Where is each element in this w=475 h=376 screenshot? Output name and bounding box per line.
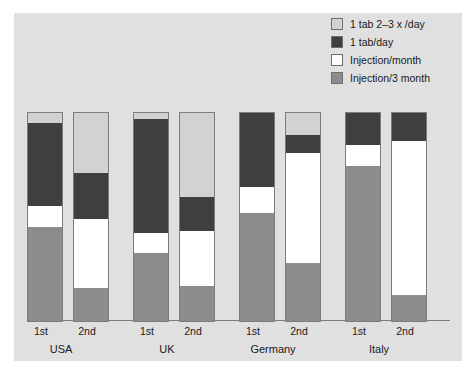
bar-italy-1st bbox=[345, 112, 381, 322]
bar-usa-1st bbox=[27, 112, 63, 322]
bar-segment-1-tab-day bbox=[240, 113, 274, 187]
bar-segment-injection-month bbox=[134, 233, 168, 253]
bar-segment-injection-3-month bbox=[286, 263, 320, 321]
bar-segment-injection-3-month bbox=[28, 227, 62, 321]
bar-segment-injection-month bbox=[392, 141, 426, 295]
bar-segment-1-tab-day bbox=[346, 113, 380, 145]
bar-segment-1-tab-day bbox=[28, 123, 62, 206]
bar-segment-injection-month bbox=[346, 145, 380, 166]
bar-segment-injection-3-month bbox=[346, 166, 380, 321]
bar-segment-1-tab-2-3-x-day bbox=[286, 113, 320, 135]
tick-label-italy-1st: 1st bbox=[336, 325, 382, 337]
chart-root: 1 tab 2–3 x /day 1 tab/day Injection/mon… bbox=[0, 0, 475, 376]
bar-segment-1-tab-2-3-x-day bbox=[28, 113, 62, 123]
group-label-germany: Germany bbox=[213, 343, 333, 355]
bar-segment-injection-month bbox=[286, 153, 320, 263]
tick-label-usa-2nd: 2nd bbox=[64, 325, 110, 337]
bar-segment-1-tab-2-3-x-day bbox=[74, 113, 108, 173]
bar-segment-1-tab-day bbox=[180, 197, 214, 231]
bar-uk-2nd bbox=[179, 112, 215, 322]
tick-label-uk-2nd: 2nd bbox=[170, 325, 216, 337]
bar-uk-1st bbox=[133, 112, 169, 322]
bar-segment-1-tab-day bbox=[74, 173, 108, 219]
bar-segment-injection-3-month bbox=[180, 286, 214, 321]
bar-segment-1-tab-day bbox=[392, 113, 426, 141]
group-label-italy: Italy bbox=[319, 343, 439, 355]
bar-segment-injection-month bbox=[180, 231, 214, 286]
bar-segment-injection-month bbox=[74, 219, 108, 288]
bar-segment-1-tab-2-3-x-day bbox=[180, 113, 214, 197]
bar-usa-2nd bbox=[73, 112, 109, 322]
tick-label-usa-1st: 1st bbox=[18, 325, 64, 337]
bar-germany-2nd bbox=[285, 112, 321, 322]
bar-segment-1-tab-day bbox=[134, 119, 168, 233]
bar-germany-1st bbox=[239, 112, 275, 322]
group-label-uk: UK bbox=[107, 343, 227, 355]
bars-area: 1st 2nd 1st 2nd 1st 2nd 1st 2nd USA UK G… bbox=[14, 13, 462, 361]
tick-label-uk-1st: 1st bbox=[124, 325, 170, 337]
bar-italy-2nd bbox=[391, 112, 427, 322]
group-label-usa: USA bbox=[1, 343, 121, 355]
tick-label-germany-2nd: 2nd bbox=[276, 325, 322, 337]
bar-segment-injection-3-month bbox=[134, 253, 168, 321]
bar-segment-1-tab-day bbox=[286, 135, 320, 153]
bar-segment-injection-3-month bbox=[240, 213, 274, 321]
bar-segment-injection-month bbox=[240, 187, 274, 213]
bar-segment-injection-3-month bbox=[74, 288, 108, 321]
bar-segment-injection-3-month bbox=[392, 295, 426, 321]
tick-label-italy-2nd: 2nd bbox=[382, 325, 428, 337]
bar-segment-injection-month bbox=[28, 206, 62, 227]
tick-label-germany-1st: 1st bbox=[230, 325, 276, 337]
